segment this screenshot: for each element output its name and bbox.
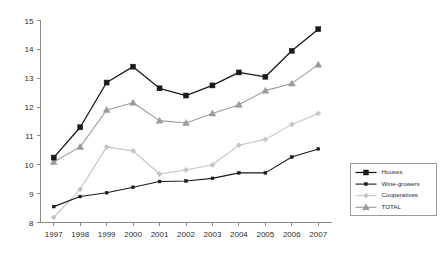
data-point-square	[236, 70, 241, 75]
data-point-triangle	[156, 117, 163, 123]
y-tick-label: 15	[25, 17, 34, 26]
data-point-square	[78, 125, 83, 130]
y-axis-ticks: 89101112131415	[25, 17, 41, 228]
y-tick-label: 12	[25, 103, 34, 112]
data-point-square	[105, 191, 108, 194]
legend-item-label: TOTAL	[382, 203, 402, 210]
y-tick-label: 9	[29, 190, 34, 199]
data-point-triangle	[315, 61, 322, 67]
y-tick-label: 10	[25, 161, 34, 170]
data-point-triangle	[288, 80, 295, 86]
series-line	[54, 65, 319, 162]
legend-item-label: Wine-growers	[382, 180, 420, 187]
data-point-diamond	[104, 144, 109, 149]
data-point-square	[317, 148, 320, 151]
data-point-square	[210, 83, 215, 88]
data-point-square	[79, 195, 82, 198]
legend-item-label: Cooperatives	[382, 191, 418, 198]
data-point-square	[51, 155, 56, 160]
data-point-diamond	[263, 137, 268, 142]
y-axis-group: 89101112131415	[25, 17, 41, 228]
series-layer	[50, 27, 321, 220]
data-point-square	[132, 186, 135, 189]
data-point-square	[316, 27, 321, 32]
data-point-diamond	[289, 122, 294, 127]
x-tick-label: 2005	[256, 230, 274, 239]
x-axis-group: 1997199819992000200120022003200420052006…	[41, 223, 332, 239]
x-tick-label: 1999	[98, 230, 116, 239]
x-tick-label: 2002	[177, 230, 195, 239]
x-tick-label: 2007	[309, 230, 327, 239]
data-point-square	[290, 156, 293, 159]
x-tick-label: 2001	[151, 230, 169, 239]
data-point-square	[131, 64, 136, 69]
data-point-square	[238, 171, 241, 174]
data-point-square	[211, 177, 214, 180]
y-tick-label: 11	[25, 132, 34, 141]
data-point-square	[264, 171, 267, 174]
series-wine-growers	[52, 148, 319, 209]
data-point-square	[263, 74, 268, 79]
series-houses	[51, 27, 321, 160]
data-point-square	[185, 180, 188, 183]
data-point-square	[52, 205, 55, 208]
chart-container: 89101112131415 1997199819992000200120022…	[0, 0, 445, 255]
data-point-square	[157, 86, 162, 91]
data-point-square	[289, 48, 294, 53]
x-tick-label: 1997	[45, 230, 63, 239]
x-axis-ticks: 1997199819992000200120022003200420052006…	[45, 223, 328, 239]
x-tick-label: 1998	[71, 230, 89, 239]
y-tick-label: 14	[25, 45, 34, 54]
data-point-square	[104, 80, 109, 85]
x-tick-label: 2004	[230, 230, 248, 239]
data-point-triangle	[235, 101, 242, 107]
x-tick-label: 2006	[283, 230, 301, 239]
series-line	[54, 149, 319, 207]
data-point-diamond	[183, 167, 188, 172]
data-point-square	[184, 93, 189, 98]
data-point-square	[365, 183, 368, 186]
y-tick-label: 8	[29, 219, 34, 228]
line-chart: 89101112131415 1997199819992000200120022…	[0, 0, 445, 255]
data-point-square	[158, 180, 161, 183]
y-tick-label: 13	[25, 74, 34, 83]
data-point-diamond	[316, 111, 321, 116]
series-cooperatives	[51, 111, 321, 220]
legend-item-label: Houses	[382, 168, 403, 175]
x-tick-label: 2000	[124, 230, 142, 239]
series-total	[50, 61, 321, 164]
chart-legend: HousesWine-growersCooperativesTOTAL	[351, 164, 437, 216]
data-point-triangle	[130, 99, 137, 105]
data-point-square	[364, 170, 369, 175]
x-tick-label: 2003	[204, 230, 222, 239]
